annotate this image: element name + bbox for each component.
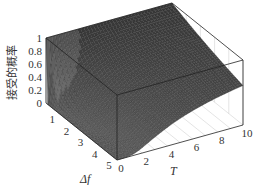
t-axis-label: T [170,164,178,178]
z-axis-ticks: 00.20.40.60.81 [28,32,42,109]
z-axis-label-text: 接受的概率 [5,45,19,100]
df-tick: 2 [64,125,70,137]
z-tick: 0.4 [28,71,42,83]
z-tick: 1 [37,32,43,44]
df-tick: 5 [106,159,112,171]
t-tick: 0 [118,162,124,174]
surface-plot: 00.20.40.60.81 12345 0246810 T Δf 接受的概率 [0,0,258,185]
df-tick: 1 [49,113,55,125]
t-tick: 6 [194,141,200,153]
t-tick: 10 [242,127,254,139]
z-tick: 0.2 [28,84,42,96]
z-tick: 0 [37,97,43,109]
z-tick: 0.6 [28,58,42,70]
df-tick: 4 [92,148,98,160]
z-axis-label: 接受的概率 [5,45,19,100]
t-tick: 8 [219,134,225,146]
z-tick: 0.8 [28,45,42,57]
t-tick: 2 [143,155,149,167]
t-tick: 4 [169,148,175,160]
probability-surface [46,3,243,160]
df-tick: 3 [78,136,84,148]
df-axis-label: Δf [79,172,92,185]
